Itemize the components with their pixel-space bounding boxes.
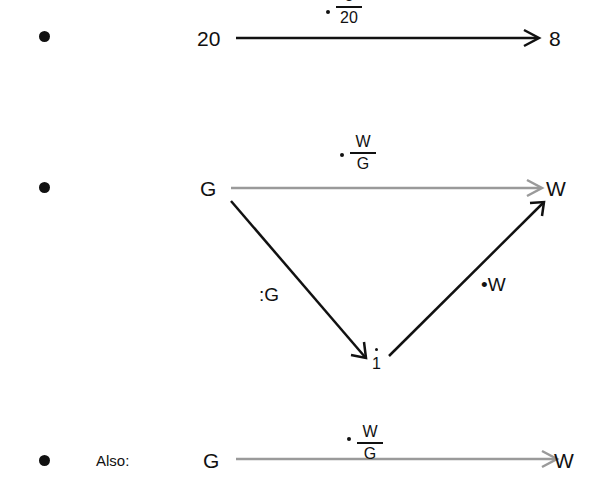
fraction-numerator: W bbox=[355, 134, 370, 150]
arrow-20-to-8 bbox=[236, 30, 539, 46]
node-8: 8 bbox=[549, 28, 561, 49]
bullet-1 bbox=[39, 31, 50, 42]
edge-label-8-over-20: 8 20 bbox=[326, 0, 362, 26]
edge-label-w-over-g: W G bbox=[340, 134, 376, 172]
node-20: 20 bbox=[197, 28, 220, 49]
arrow-1-to-w bbox=[389, 202, 544, 356]
arrow-g-to-1 bbox=[231, 201, 366, 358]
fraction-bar bbox=[350, 152, 376, 154]
node-1-dot bbox=[375, 348, 378, 351]
edge-label-times-w: •W bbox=[481, 275, 506, 294]
node-1: 1 bbox=[372, 356, 381, 372]
bullet-2 bbox=[39, 182, 50, 193]
multiply-dot bbox=[326, 10, 330, 14]
multiply-dot bbox=[340, 153, 344, 157]
node-g: G bbox=[200, 178, 216, 199]
fraction-denominator: G bbox=[357, 156, 369, 172]
fraction-denominator: 20 bbox=[340, 10, 358, 26]
node-w: W bbox=[546, 178, 566, 199]
fraction-numerator: W bbox=[362, 424, 377, 440]
edge-label-divide-g: :G bbox=[259, 285, 279, 304]
edge-label-w-over-g-also: W G bbox=[347, 424, 383, 462]
node-g-also: G bbox=[203, 450, 219, 471]
diagram-arrows bbox=[0, 0, 601, 503]
node-w-also: W bbox=[554, 450, 574, 471]
fraction-bar bbox=[336, 6, 362, 8]
arrow-also-g-to-w bbox=[236, 451, 557, 467]
multiply-dot bbox=[347, 437, 351, 441]
also-label: Also: bbox=[96, 453, 129, 468]
fraction-denominator: G bbox=[364, 446, 376, 462]
arrow-g-to-w-gray bbox=[231, 180, 542, 196]
fraction-bar bbox=[357, 442, 383, 444]
fraction-numerator: 8 bbox=[345, 0, 354, 4]
bullet-3 bbox=[39, 455, 50, 466]
